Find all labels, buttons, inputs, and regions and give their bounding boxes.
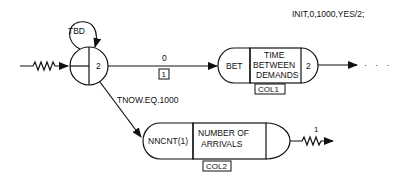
activity-2-line[interactable] [100,82,141,137]
activity-1-duration: 0 [162,53,167,63]
col2-label: COL2 [206,162,227,171]
nncnt-label-line1: NUMBER OF [198,128,249,138]
network-diagram: INIT,0,1000,YES/2; 2 TBD 0 1 BET TIME BE… [0,0,409,182]
bet-label-line3: DEMANDS [256,70,299,80]
bet-max-branches: 2 [306,61,311,71]
col1-label: COL1 [258,85,279,94]
colct-node-nncnt[interactable]: NNCNT(1) NUMBER OF ARRIVALS COL2 [143,123,290,171]
tbd-label: TBD [68,26,85,36]
terminate-count: 1 [314,125,319,134]
continuation-dots: · · · [364,60,392,70]
create-max-branches: 2 [96,61,101,71]
colct-node-bet[interactable]: BET TIME BETWEEN DEMANDS 2 COL1 [218,48,318,94]
activity-2-condition: TNOW.EQ.1000 [117,95,179,105]
nncnt-attribute: NNCNT(1) [148,136,188,146]
bet-attribute: BET [226,61,243,71]
bet-label-line2: BETWEEN [253,60,295,70]
init-statement: INIT,0,1000,YES/2; [292,9,364,19]
incoming-activity-zigzag-icon [20,62,68,70]
nncnt-label-line2: ARRIVALS [201,139,243,149]
activity-number: 1 [162,70,167,79]
terminate-zigzag-icon [290,137,333,145]
create-node[interactable]: 2 [70,47,108,85]
bet-label-line1: TIME [264,50,285,60]
